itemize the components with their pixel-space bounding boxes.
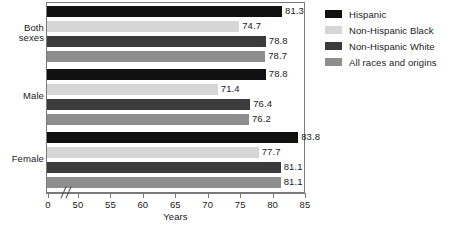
bar-value-label: 71.4: [221, 83, 240, 94]
x-tick-50: [78, 193, 79, 198]
x-tick-label-80: 80: [258, 199, 288, 210]
x-tick-label-75: 75: [225, 199, 255, 210]
x-axis-title: Years: [46, 211, 305, 222]
legend: HispanicNon-Hispanic BlackNon-Hispanic W…: [325, 6, 453, 70]
x-tick-label-55: 55: [95, 199, 125, 210]
x-tick-85: [305, 193, 306, 198]
bar-female-series-0: [47, 132, 298, 143]
bar-value-label: 83.8: [301, 131, 320, 142]
x-tick-65: [175, 193, 176, 198]
x-tick-0: [48, 193, 49, 198]
bar-both-sexes-series-1: [47, 21, 239, 32]
x-tick-label-50: 50: [63, 199, 93, 210]
x-tick-label-60: 60: [128, 199, 158, 210]
bar-value-label: 81.1: [284, 176, 303, 187]
legend-item-0: Hispanic: [325, 6, 453, 22]
bar-both-sexes-series-2: [47, 36, 266, 47]
group-label-male: Male: [23, 91, 44, 102]
bar-value-label: 77.7: [262, 146, 281, 157]
bar-both-sexes-series-0: [47, 6, 282, 17]
x-tick-75: [240, 193, 241, 198]
legend-swatch-icon: [325, 58, 342, 66]
bar-value-label: 76.4: [253, 98, 272, 109]
legend-swatch-icon: [325, 10, 342, 18]
legend-swatch-icon: [325, 26, 342, 34]
group-label-both-sexes: Both sexes: [19, 23, 44, 44]
bar-female-series-1: [47, 147, 259, 158]
bar-male-series-1: [47, 84, 218, 95]
x-tick-55: [110, 193, 111, 198]
group-label-female: Female: [12, 154, 44, 165]
legend-item-label: All races and origins: [349, 57, 437, 68]
legend-item-3: All races and origins: [325, 54, 453, 70]
bar-value-label: 78.8: [269, 68, 288, 79]
bar-male-series-3: [47, 114, 249, 125]
bar-male-series-0: [47, 69, 266, 80]
legend-item-label: Non-Hispanic White: [349, 41, 435, 52]
legend-swatch-icon: [325, 42, 342, 50]
bar-female-series-2: [47, 162, 281, 173]
bar-value-label: 81.3: [285, 5, 304, 16]
bar-both-sexes-series-3: [47, 51, 265, 62]
bar-value-label: 78.8: [269, 35, 288, 46]
x-tick-label-70: 70: [193, 199, 223, 210]
bar-female-series-3: [47, 177, 281, 188]
x-tick-label-85: 85: [290, 199, 320, 210]
bar-male-series-2: [47, 99, 250, 110]
bar-value-label: 78.7: [268, 50, 287, 61]
x-tick-label-0: 0: [33, 199, 63, 210]
life-expectancy-bar-chart: Both sexes Male Female 05055606570758085…: [0, 0, 453, 228]
x-tick-label-65: 65: [160, 199, 190, 210]
legend-item-1: Non-Hispanic Black: [325, 22, 453, 38]
x-tick-70: [208, 193, 209, 198]
x-tick-60: [143, 193, 144, 198]
bar-value-label: 74.7: [242, 20, 261, 31]
legend-item-2: Non-Hispanic White: [325, 38, 453, 54]
legend-item-label: Hispanic: [349, 9, 386, 20]
legend-item-label: Non-Hispanic Black: [349, 25, 434, 36]
bar-value-label: 76.2: [252, 113, 271, 124]
bar-value-label: 81.1: [284, 161, 303, 172]
x-tick-80: [273, 193, 274, 198]
